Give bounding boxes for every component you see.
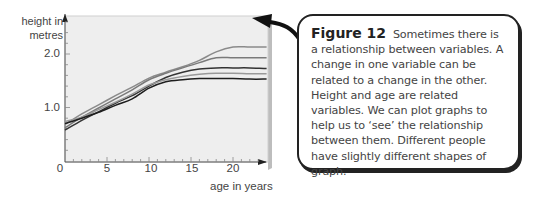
x-tick-0: 0	[57, 162, 63, 174]
x-tick-10: 10	[145, 162, 158, 174]
y-axis-label-line1: height in	[21, 14, 63, 28]
figure-caption-box: Figure 12 Sometimes there is a relations…	[297, 14, 520, 170]
height-age-chart: height in metres 2.0 1.0 0 5 10 15 20 ag…	[0, 0, 280, 198]
x-tick-20: 20	[227, 162, 240, 174]
y-axis-label: height in metres	[21, 14, 63, 42]
y-tick-1: 1.0	[44, 101, 60, 113]
caption-text: Sometimes there is a relationship betwee…	[311, 28, 503, 178]
x-axis-label: age in years	[210, 180, 273, 192]
figure-label: Figure 12	[311, 25, 386, 41]
plot-area	[65, 16, 268, 162]
x-tick-15: 15	[186, 162, 199, 174]
x-tick-5: 5	[104, 162, 110, 174]
y-tick-2: 2.0	[44, 47, 60, 59]
y-axis-label-line2: metres	[21, 28, 63, 42]
